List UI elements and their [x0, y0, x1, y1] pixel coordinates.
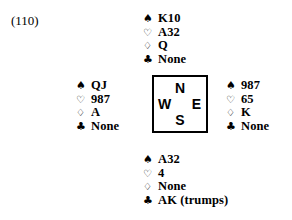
east-hand: ♠ 987 ♡ 65 ♢ K ♣ None	[226, 79, 269, 133]
south-hearts-row: ♡ 4	[143, 167, 228, 181]
page-number-label: (110)	[11, 13, 39, 29]
east-hearts-row: ♡ 65	[226, 93, 269, 107]
east-clubs-cards: None	[241, 120, 269, 134]
bridge-deal-diagram: (110) ♠ K10 ♡ A32 ♢ Q ♣ None ♠ QJ ♡ 987	[0, 0, 292, 220]
south-spades-cards: A32	[158, 153, 180, 167]
west-hearts-cards: 987	[91, 93, 110, 107]
west-clubs-row: ♣ None	[76, 120, 119, 134]
diamond-suit-icon: ♢	[76, 106, 91, 120]
heart-suit-icon: ♡	[143, 167, 158, 181]
south-diamonds-row: ♢ None	[143, 180, 228, 194]
south-hand: ♠ A32 ♡ 4 ♢ None ♣ AK (trumps)	[143, 153, 228, 207]
spade-suit-icon: ♠	[226, 79, 241, 93]
west-hand: ♠ QJ ♡ 987 ♢ A ♣ None	[76, 79, 119, 133]
east-hearts-cards: 65	[241, 93, 254, 107]
north-clubs-cards: None	[158, 53, 186, 67]
north-diamonds-row: ♢ Q	[143, 39, 186, 53]
north-clubs-row: ♣ None	[143, 53, 186, 67]
west-diamonds-cards: A	[91, 106, 100, 120]
east-diamonds-row: ♢ K	[226, 106, 269, 120]
spade-suit-icon: ♠	[143, 153, 158, 167]
north-hearts-cards: A32	[158, 26, 180, 40]
club-suit-icon: ♣	[143, 194, 158, 208]
compass-east-label: E	[192, 97, 201, 111]
heart-suit-icon: ♡	[76, 93, 91, 107]
north-diamonds-cards: Q	[158, 39, 168, 53]
south-clubs-cards: AK (trumps)	[158, 194, 228, 208]
club-suit-icon: ♣	[76, 120, 91, 134]
east-diamonds-cards: K	[241, 106, 251, 120]
compass-west-label: W	[158, 97, 171, 111]
south-hearts-cards: 4	[158, 167, 164, 181]
west-clubs-cards: None	[91, 120, 119, 134]
east-spades-row: ♠ 987	[226, 79, 269, 93]
west-diamonds-row: ♢ A	[76, 106, 119, 120]
east-clubs-row: ♣ None	[226, 120, 269, 134]
south-clubs-row: ♣ AK (trumps)	[143, 194, 228, 208]
diamond-suit-icon: ♢	[143, 180, 158, 194]
north-hand: ♠ K10 ♡ A32 ♢ Q ♣ None	[143, 12, 186, 66]
west-hearts-row: ♡ 987	[76, 93, 119, 107]
heart-suit-icon: ♡	[226, 93, 241, 107]
compass-box: N W E S	[152, 75, 208, 133]
north-hearts-row: ♡ A32	[143, 26, 186, 40]
heart-suit-icon: ♡	[143, 26, 158, 40]
south-diamonds-cards: None	[158, 180, 186, 194]
diamond-suit-icon: ♢	[226, 106, 241, 120]
south-spades-row: ♠ A32	[143, 153, 228, 167]
compass-south-label: S	[154, 113, 206, 127]
spade-suit-icon: ♠	[143, 12, 158, 26]
north-spades-cards: K10	[158, 12, 181, 26]
spade-suit-icon: ♠	[76, 79, 91, 93]
club-suit-icon: ♣	[226, 120, 241, 134]
east-spades-cards: 987	[241, 79, 260, 93]
west-spades-cards: QJ	[91, 79, 107, 93]
north-spades-row: ♠ K10	[143, 12, 186, 26]
west-spades-row: ♠ QJ	[76, 79, 119, 93]
diamond-suit-icon: ♢	[143, 39, 158, 53]
club-suit-icon: ♣	[143, 53, 158, 67]
compass-north-label: N	[154, 81, 206, 95]
